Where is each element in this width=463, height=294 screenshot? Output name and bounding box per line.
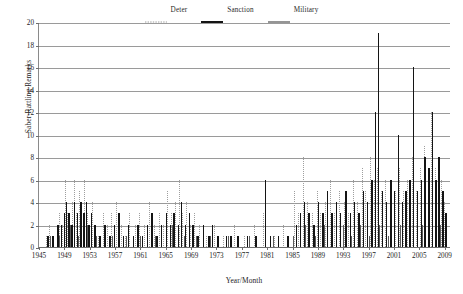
data-bar-sanction	[318, 202, 319, 247]
data-bar-sanction	[147, 225, 148, 248]
data-bar-sanction	[170, 225, 171, 248]
data-bar-sanction	[114, 225, 115, 248]
data-bar-sanction	[104, 225, 105, 248]
data-bar-military	[332, 236, 333, 247]
legend-label-deter: Deter	[171, 7, 188, 14]
y-tick-label: 10	[27, 132, 34, 140]
x-tick-label: 1981	[260, 252, 274, 260]
data-bar-military	[369, 236, 370, 247]
data-bar-sanction	[66, 202, 67, 247]
data-bar-deter	[223, 236, 224, 247]
x-tick-label: 1965	[159, 252, 173, 260]
data-bar-sanction	[68, 213, 69, 247]
data-bar-military	[429, 236, 430, 247]
data-bar-deter	[234, 225, 235, 248]
x-tick-label: 1993	[336, 252, 350, 260]
data-bar-sanction	[358, 213, 359, 247]
data-bar-sanction	[428, 168, 429, 247]
data-bar-sanction	[375, 112, 376, 247]
x-tick-mark	[140, 247, 141, 250]
y-tick-label: 12	[27, 109, 34, 117]
data-bar-sanction	[203, 225, 204, 248]
data-bar-military	[388, 236, 389, 247]
data-bar-sanction	[83, 213, 84, 247]
x-tick-mark	[242, 247, 243, 250]
data-bar-deter	[334, 213, 335, 247]
data-bar-sanction	[432, 112, 433, 247]
data-bar-sanction	[386, 202, 387, 247]
legend-item-sanction: Sanction	[201, 7, 253, 14]
data-bar-sanction	[118, 213, 119, 247]
data-bar-deter	[135, 225, 136, 248]
data-bar-sanction	[417, 191, 418, 247]
data-bar-sanction	[247, 236, 248, 247]
data-bar-sanction	[405, 191, 406, 247]
data-bar-sanction	[424, 157, 425, 247]
data-bar-sanction	[287, 236, 288, 247]
data-bar-military	[360, 225, 361, 248]
data-bar-sanction	[161, 225, 162, 248]
data-bar-sanction	[192, 225, 193, 248]
data-bar-military	[324, 225, 325, 248]
data-bar-military	[249, 236, 250, 247]
x-tick-label: 1953	[83, 252, 97, 260]
data-bar-military	[59, 236, 60, 247]
y-tick-label: 18	[27, 42, 34, 50]
data-bar-military	[379, 225, 380, 248]
data-bar-deter	[294, 191, 295, 247]
data-bar-sanction	[255, 236, 256, 247]
x-tick-mark	[369, 247, 370, 250]
data-bar-military	[315, 236, 316, 247]
data-bar-military	[293, 236, 294, 247]
data-bar-sanction	[442, 191, 443, 247]
x-tick-label: 2005	[412, 252, 426, 260]
data-bar-sanction	[52, 236, 53, 247]
x-tick-label: 1949	[57, 252, 71, 260]
data-bar-sanction	[413, 67, 414, 247]
data-bar-deter	[121, 225, 122, 248]
data-bar-deter	[182, 213, 183, 247]
data-bar-sanction	[156, 236, 157, 247]
data-bar-sanction	[354, 202, 355, 247]
x-tick-label: 1961	[133, 252, 147, 260]
data-bar-military	[410, 236, 411, 247]
data-bar-sanction	[327, 191, 328, 247]
legend-item-deter: Deter	[145, 7, 188, 14]
data-bar-sanction	[94, 225, 95, 248]
data-bar-sanction	[71, 225, 72, 248]
data-bar-sanction	[345, 191, 346, 247]
data-bar-sanction	[133, 236, 134, 247]
data-bar-sanction	[185, 225, 186, 248]
x-tick-label: 1957	[108, 252, 122, 260]
data-bar-deter	[274, 236, 275, 247]
data-bar-sanction	[99, 236, 100, 247]
data-bar-sanction	[300, 213, 301, 247]
data-bar-sanction	[57, 225, 58, 248]
data-bar-deter	[199, 225, 200, 248]
data-bar-military	[112, 236, 113, 247]
y-tick-label: 6	[30, 177, 34, 185]
data-bar-deter	[125, 236, 126, 247]
x-tick-mark	[445, 247, 446, 250]
x-tick-mark	[343, 247, 344, 250]
y-tick-label: 8	[30, 154, 34, 162]
x-tick-label: 1945	[32, 252, 46, 260]
chart-legend: Deter Sanction Military	[0, 7, 463, 14]
data-bar-sanction	[278, 236, 279, 247]
data-bar-deter	[206, 236, 207, 247]
data-bar-sanction	[390, 180, 391, 248]
data-bar-sanction	[438, 157, 439, 247]
legend-item-military: Military	[268, 7, 319, 14]
data-bar-sanction	[435, 180, 436, 248]
y-tick-label: 20	[27, 19, 34, 27]
data-bar-sanction	[378, 33, 379, 247]
data-bar-deter	[167, 191, 168, 247]
data-bar-sanction	[398, 135, 399, 248]
data-bar-military	[273, 236, 274, 247]
data-bar-sanction	[217, 236, 218, 247]
data-bar-sanction	[109, 236, 110, 247]
x-tick-label: 1989	[311, 252, 325, 260]
data-bar-military	[343, 225, 344, 248]
data-bar-deter	[214, 225, 215, 248]
data-bar-deter	[163, 225, 164, 248]
